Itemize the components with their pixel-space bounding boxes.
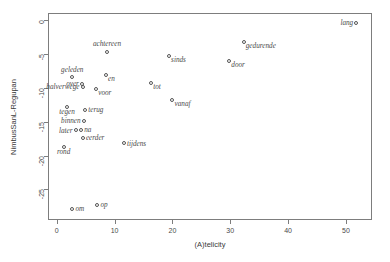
x-tick-label: 30: [226, 227, 234, 234]
x-tick: [230, 220, 231, 224]
data-point: [79, 128, 83, 132]
x-tick: [57, 220, 58, 224]
point-label: achtereen: [93, 41, 121, 48]
x-tick-label: 10: [111, 227, 119, 234]
x-axis-title: (A)telicity: [195, 240, 226, 249]
scatter-plot: 01020304050 0-5-10-15-20-25 langgedurend…: [0, 0, 390, 262]
point-label: door: [231, 62, 245, 69]
point-label: rond: [57, 149, 70, 156]
x-tick-label: 40: [284, 227, 292, 234]
y-tick: [44, 20, 48, 21]
point-label: lang: [340, 20, 353, 27]
x-tick: [288, 220, 289, 224]
x-tick-label: 50: [342, 227, 350, 234]
point-label: en: [108, 76, 115, 83]
point-label: tegen: [59, 109, 75, 116]
point-label: vanaf: [175, 101, 191, 108]
x-tick-label: 0: [55, 227, 59, 234]
y-tick-label: 0: [38, 20, 45, 24]
point-label: eerder: [86, 135, 105, 142]
point-label: binnen: [61, 119, 81, 126]
y-tick-label: -15: [38, 122, 45, 132]
y-tick: [44, 189, 48, 190]
y-tick-label: -20: [38, 156, 45, 166]
point-label: na: [84, 127, 91, 134]
y-tick-label: -10: [38, 88, 45, 98]
x-tick: [346, 220, 347, 224]
data-point: [81, 136, 85, 140]
data-point: [81, 85, 85, 89]
x-tick: [115, 220, 116, 224]
point-label: op: [100, 203, 107, 210]
point-label: later: [59, 128, 73, 135]
data-point: [105, 50, 109, 54]
point-label: voor: [98, 90, 111, 97]
point-label: sinds: [171, 57, 186, 64]
y-tick: [44, 122, 48, 123]
data-point: [354, 21, 358, 25]
x-tick: [172, 220, 173, 224]
y-tick: [44, 54, 48, 55]
y-tick-label: -25: [38, 189, 45, 199]
y-axis-title: NimbusSanL-Regupan: [9, 79, 18, 155]
point-label: gedurende: [246, 43, 276, 50]
point-label: tot: [153, 84, 161, 91]
point-label: terug: [88, 108, 103, 115]
y-tick: [44, 156, 48, 157]
y-tick-label: -5: [38, 54, 45, 60]
point-label: geleden: [61, 66, 83, 73]
point-label: tijdens: [127, 141, 146, 148]
data-point: [82, 119, 86, 123]
x-tick-label: 20: [168, 227, 176, 234]
point-label: om: [76, 207, 85, 214]
point-label: halverwege: [46, 85, 79, 92]
